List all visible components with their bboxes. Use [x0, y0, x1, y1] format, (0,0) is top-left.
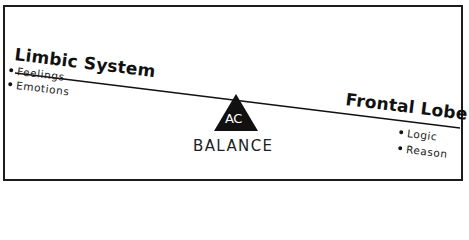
fulcrum-logo-text: AC	[225, 111, 242, 126]
bullet-icon	[398, 146, 402, 150]
bullet-icon	[8, 82, 12, 86]
bullet-icon	[399, 130, 403, 134]
bullet-icon	[9, 68, 13, 72]
balance-label: BALANCE	[193, 137, 274, 155]
